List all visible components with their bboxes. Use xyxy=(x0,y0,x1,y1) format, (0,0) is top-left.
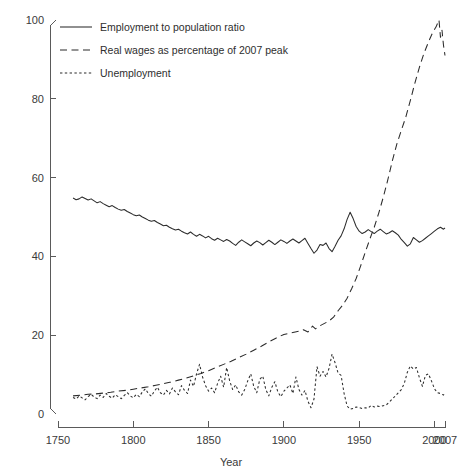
y-tick-label: 100 xyxy=(26,14,44,26)
chart-container: 020406080100 175018001850190019502000200… xyxy=(0,0,461,476)
x-tick-label: 2007 xyxy=(433,434,457,446)
x-axis: 1750180018501900195020002007 xyxy=(46,421,457,446)
legend-label-2: Unemployment xyxy=(100,67,171,79)
y-axis: 020406080100 xyxy=(26,14,56,420)
x-tick-label: 1850 xyxy=(196,434,220,446)
y-tick-label: 40 xyxy=(32,250,44,262)
legend-label-0: Employment to population ratio xyxy=(100,21,245,33)
x-axis-title: Year xyxy=(220,456,243,468)
y-tick-label: 60 xyxy=(32,172,44,184)
series-line-0 xyxy=(73,197,445,253)
x-tick-label: 1950 xyxy=(347,434,371,446)
x-tick-label: 1750 xyxy=(46,434,70,446)
legend-label-1: Real wages as percentage of 2007 peak xyxy=(100,44,289,56)
line-chart: 020406080100 175018001850190019502000200… xyxy=(0,0,461,476)
series-line-2 xyxy=(73,354,445,409)
y-tick-label: 80 xyxy=(32,93,44,105)
x-tick-label: 1900 xyxy=(272,434,296,446)
x-tick-label: 1800 xyxy=(121,434,145,446)
y-tick-label: 20 xyxy=(32,329,44,341)
chart-legend: Employment to population ratioReal wages… xyxy=(60,21,289,79)
y-tick-label: 0 xyxy=(38,408,44,420)
